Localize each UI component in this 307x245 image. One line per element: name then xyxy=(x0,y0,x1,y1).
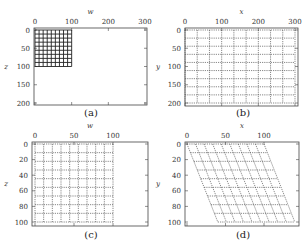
grid-line-vertical xyxy=(221,144,252,222)
y-axis-label: y xyxy=(155,63,161,71)
x-tick-label: 200 xyxy=(252,18,265,26)
panel-a: 0100200300050100150200wz xyxy=(0,0,155,120)
y-tick-label: 100 xyxy=(168,63,181,71)
y-tick-label: 50 xyxy=(172,45,181,53)
grid-line-vertical xyxy=(230,144,261,222)
grid-line-vertical xyxy=(264,144,295,222)
y-tick-label: 0 xyxy=(177,141,181,149)
panel-b: 0100200300050100150200xy xyxy=(152,0,307,120)
x-tick-label: 100 xyxy=(106,132,119,140)
plot-a: 0100200300050100150200wz xyxy=(0,0,155,120)
grid-line-vertical xyxy=(196,144,227,222)
x-tick-label: 50 xyxy=(221,132,230,140)
plot-frame xyxy=(185,28,298,106)
y-tick-label: 60 xyxy=(172,187,181,195)
y-tick-label: 100 xyxy=(15,219,28,227)
x-axis-label: x xyxy=(240,8,244,16)
y-tick-label: 20 xyxy=(172,156,181,164)
plot-b: 0100200300050100150200xy xyxy=(152,0,307,120)
panel-d: 050100020406080100xy xyxy=(152,118,307,245)
grid-line-vertical xyxy=(238,144,269,222)
y-tick-label: 0 xyxy=(26,27,30,35)
plot-d: 050100020406080100xy xyxy=(152,118,307,245)
x-tick-label: 100 xyxy=(65,18,78,26)
y-axis-label: z xyxy=(3,63,8,71)
y-tick-label: 200 xyxy=(168,100,181,108)
grid-line-vertical xyxy=(213,144,244,222)
x-tick-label: 300 xyxy=(138,18,151,26)
caption-a: (a) xyxy=(71,107,111,118)
plot-c: 050100020406080100wz xyxy=(0,118,155,245)
y-tick-label: 60 xyxy=(19,187,28,195)
panel-c: 050100020406080100wz xyxy=(0,118,155,245)
grid-line-vertical xyxy=(247,144,278,222)
y-tick-label: 40 xyxy=(172,172,181,180)
caption-d: (d) xyxy=(223,229,263,240)
x-tick-label: 0 xyxy=(183,18,187,26)
y-tick-label: 150 xyxy=(168,81,181,89)
y-tick-label: 100 xyxy=(17,63,30,71)
grid-line-vertical xyxy=(204,144,235,222)
grid-line-vertical xyxy=(255,144,286,222)
y-tick-label: 0 xyxy=(177,27,181,35)
x-tick-label: 100 xyxy=(257,132,270,140)
x-tick-label: 200 xyxy=(102,18,115,26)
x-tick-label: 50 xyxy=(70,132,79,140)
y-axis-label: y xyxy=(155,180,161,188)
y-axis-label: z xyxy=(3,180,8,188)
x-axis-label: w xyxy=(87,122,93,130)
y-tick-label: 100 xyxy=(168,219,181,227)
x-tick-label: 100 xyxy=(215,18,228,26)
y-tick-label: 40 xyxy=(19,172,28,180)
x-tick-label: 300 xyxy=(288,18,301,26)
caption-b: (b) xyxy=(223,107,263,118)
y-tick-label: 80 xyxy=(172,203,181,211)
y-tick-label: 80 xyxy=(19,203,28,211)
x-tick-label: 0 xyxy=(33,132,37,140)
y-tick-label: 50 xyxy=(21,45,30,53)
y-tick-label: 0 xyxy=(24,141,28,149)
x-axis-label: x xyxy=(240,122,244,130)
y-tick-label: 150 xyxy=(17,81,30,89)
x-axis-label: w xyxy=(88,8,94,16)
y-tick-label: 20 xyxy=(19,156,28,164)
grid-line-vertical xyxy=(187,144,218,222)
x-tick-label: 0 xyxy=(185,132,189,140)
plot-frame xyxy=(185,142,299,226)
caption-c: (c) xyxy=(71,229,111,240)
y-tick-label: 200 xyxy=(17,100,30,108)
x-tick-label: 0 xyxy=(33,18,37,26)
